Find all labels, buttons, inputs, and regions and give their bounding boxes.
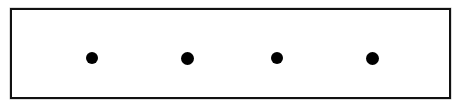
dot-4: [366, 52, 379, 65]
dot-2: [181, 52, 194, 65]
dot-3: [271, 52, 283, 64]
figure-canvas: [0, 0, 459, 109]
dot-1: [86, 52, 98, 64]
rectangular-border: [10, 8, 451, 99]
